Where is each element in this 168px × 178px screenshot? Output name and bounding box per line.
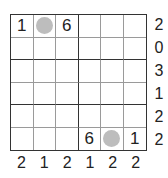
grid-cell[interactable] <box>34 105 57 128</box>
grid-cell[interactable] <box>56 105 79 128</box>
grid-cell[interactable] <box>34 60 57 83</box>
grid-cell[interactable] <box>124 105 147 128</box>
grid-cell[interactable] <box>79 60 102 83</box>
grid-cell[interactable] <box>34 15 57 38</box>
grid-cell[interactable] <box>79 15 102 38</box>
shaded-circle-icon <box>103 130 120 147</box>
cell-value: 1 <box>130 130 139 147</box>
row-clue: 0 <box>150 37 168 60</box>
grid-cell[interactable] <box>34 83 57 106</box>
column-clue: 2 <box>124 153 147 173</box>
row-clue: 2 <box>150 105 168 128</box>
grid-cell[interactable]: 1 <box>124 128 147 151</box>
grid-cell[interactable] <box>101 105 124 128</box>
column-clue: 2 <box>101 153 124 173</box>
grid-cell[interactable] <box>56 128 79 151</box>
column-clue: 2 <box>56 153 79 173</box>
grid-cell[interactable] <box>101 128 124 151</box>
grid-cell[interactable] <box>101 60 124 83</box>
grid-cell[interactable] <box>11 105 34 128</box>
grid-cell[interactable] <box>79 105 102 128</box>
grid-cell[interactable] <box>56 38 79 61</box>
grid-cell[interactable] <box>101 15 124 38</box>
grid-cell[interactable] <box>124 15 147 38</box>
grid-cell[interactable] <box>11 83 34 106</box>
row-clue: 2 <box>150 14 168 37</box>
grid-cell[interactable] <box>79 38 102 61</box>
grid-cell[interactable] <box>34 38 57 61</box>
column-clue: 1 <box>79 153 102 173</box>
grid-cell[interactable] <box>11 60 34 83</box>
grid-cell[interactable] <box>101 83 124 106</box>
row-clues: 203122 <box>150 14 168 151</box>
puzzle-grid: 1661 <box>10 14 147 151</box>
grid-cell[interactable] <box>11 38 34 61</box>
grid-cell[interactable] <box>79 83 102 106</box>
column-clue: 2 <box>10 153 33 173</box>
grid-cell[interactable] <box>124 38 147 61</box>
shaded-circle-icon <box>36 17 53 34</box>
row-clue: 2 <box>150 128 168 151</box>
row-clue: 1 <box>150 83 168 106</box>
grid-cell[interactable] <box>124 60 147 83</box>
grid-cell[interactable]: 6 <box>56 15 79 38</box>
column-clues: 212122 <box>10 153 147 173</box>
cell-value: 1 <box>17 17 26 34</box>
grid-cell[interactable]: 6 <box>79 128 102 151</box>
grid-cell[interactable] <box>101 38 124 61</box>
row-clue: 3 <box>150 60 168 83</box>
grid-cell[interactable] <box>34 128 57 151</box>
grid-cell[interactable] <box>124 83 147 106</box>
cell-value: 6 <box>62 17 71 34</box>
grid-cell[interactable] <box>11 128 34 151</box>
grid-cell[interactable]: 1 <box>11 15 34 38</box>
grid-cell[interactable] <box>56 60 79 83</box>
cell-value: 6 <box>85 130 94 147</box>
grid-cell[interactable] <box>56 83 79 106</box>
column-clue: 1 <box>33 153 56 173</box>
